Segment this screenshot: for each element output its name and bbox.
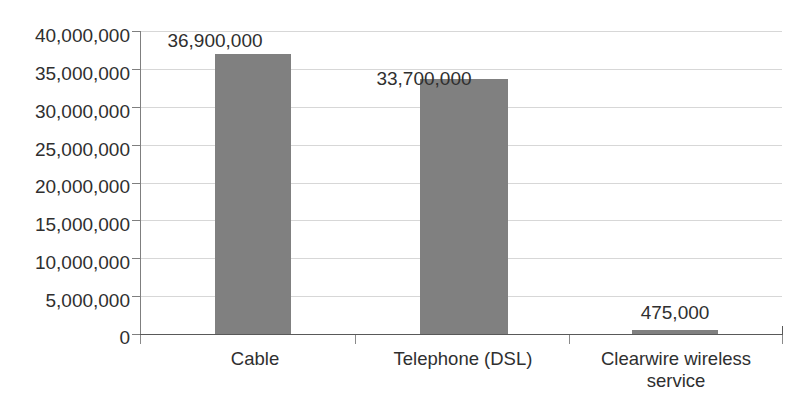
x-tick-mark <box>569 335 570 344</box>
x-axis-category-cable-line1: Cable <box>183 348 327 370</box>
x-axis-category-clearwire-line1: Clearwire wireless <box>575 348 777 370</box>
y-tick-mark <box>132 183 140 184</box>
x-axis-line <box>140 334 783 335</box>
x-axis-category-telephone-dsl-line1: Telephone (DSL) <box>389 348 537 370</box>
y-axis-line <box>140 31 141 335</box>
y-axis-label: 30,000,000 <box>4 102 130 121</box>
y-axis-label: 20,000,000 <box>4 177 130 196</box>
y-axis-label: 5,000,000 <box>4 291 130 310</box>
data-label-cable: 36,900,000 <box>153 31 277 50</box>
x-axis-category-cable: Cable <box>183 348 327 370</box>
y-axis-label: 15,000,000 <box>4 215 130 234</box>
y-tick-mark <box>132 334 140 335</box>
bar-telephone-dsl <box>420 79 508 334</box>
y-tick-mark <box>132 69 140 70</box>
y-tick-mark <box>132 296 140 297</box>
y-tick-mark <box>132 107 140 108</box>
y-axis-labels: 40,000,000 35,000,000 30,000,000 25,000,… <box>0 0 130 412</box>
y-axis-label: 35,000,000 <box>4 64 130 83</box>
y-axis-label: 25,000,000 <box>4 140 130 159</box>
x-tick-mark <box>140 335 141 344</box>
bar-chart: Broadband users in U.S. at the end of 20… <box>0 0 796 412</box>
x-tick-mark <box>355 335 356 344</box>
data-label-clearwire-wireless-service: 475,000 <box>625 303 725 322</box>
bar-cable <box>215 54 291 334</box>
y-tick-mark <box>132 145 140 146</box>
data-label-telephone-dsl: 33,700,000 <box>362 69 486 88</box>
x-axis-category-telephone-dsl: Telephone (DSL) <box>389 348 537 370</box>
y-axis-label: 0 <box>4 328 130 347</box>
x-axis-right-cap <box>782 326 783 335</box>
y-tick-mark <box>132 220 140 221</box>
y-tick-mark <box>132 31 140 32</box>
y-axis-label: 40,000,000 <box>4 26 130 45</box>
x-tick-mark <box>782 335 783 344</box>
y-axis-label: 10,000,000 <box>4 253 130 272</box>
x-axis-category-clearwire-line2: service <box>575 370 777 392</box>
y-tick-mark <box>132 258 140 259</box>
x-axis-category-clearwire-wireless-service: Clearwire wireless service <box>575 348 777 392</box>
